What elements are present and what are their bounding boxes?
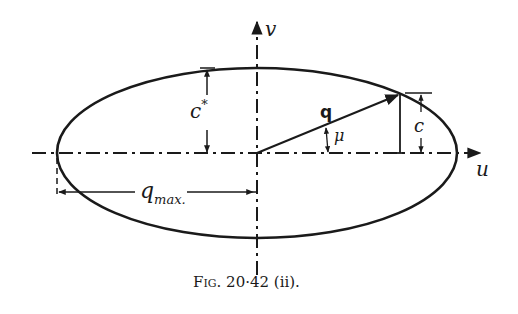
- q-max-label: qmax.: [140, 178, 186, 207]
- ellipse-diagram: c* q μ c qmax. v u Fig. 20·42 (ii).: [0, 0, 518, 314]
- mu-angle-marker: [326, 128, 328, 152]
- c-label: c: [414, 115, 424, 136]
- u-axis-label: u: [476, 157, 489, 181]
- figure-caption: Fig. 20·42 (ii).: [193, 273, 300, 291]
- mu-label: μ: [334, 126, 344, 145]
- c-star-label: c*: [190, 97, 208, 123]
- v-axis-label: v: [265, 17, 277, 41]
- q-label: q: [320, 102, 332, 122]
